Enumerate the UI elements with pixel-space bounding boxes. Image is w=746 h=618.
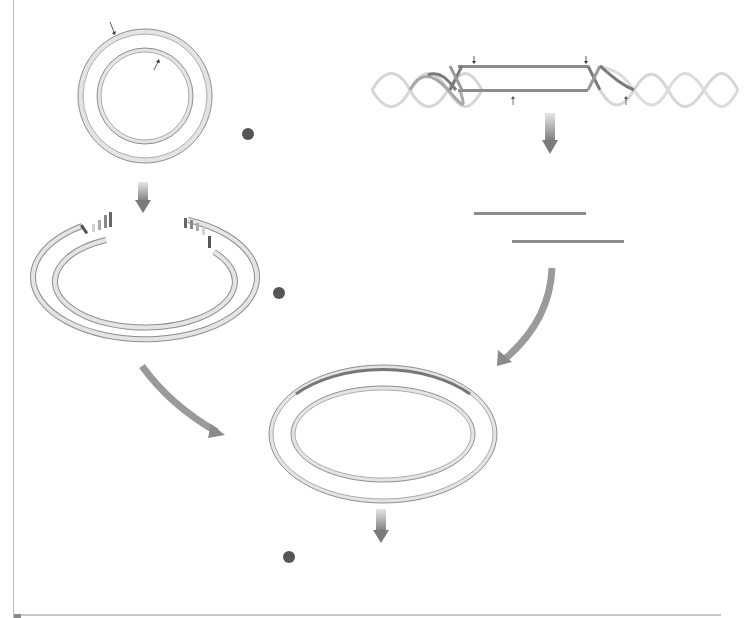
dna-of-interest-helix: [372, 56, 738, 107]
down-arrow-icon: [373, 509, 389, 543]
cut-site-arrow-icon: [110, 22, 116, 35]
plasmid-circle: [78, 22, 212, 163]
curved-arrow-left-icon: [142, 366, 225, 438]
cut-site-arrow-icon: [584, 56, 588, 64]
clonable-dna-fragment: [474, 212, 624, 243]
curved-arrow-right-icon: [497, 268, 552, 366]
opened-plasmid: [33, 212, 257, 339]
cut-site-arrow-icon: [472, 56, 476, 64]
down-arrow-icon: [135, 182, 151, 213]
step-number-badge: [283, 551, 295, 563]
bottom-strand: [458, 89, 588, 92]
step-number-badge: [273, 287, 285, 299]
step-number-badge: [242, 128, 254, 140]
recombinant-dna-ring: [269, 365, 497, 503]
recombinant-dna-diagram: [0, 0, 746, 618]
cut-site-arrow-icon: [511, 96, 515, 105]
top-strand: [458, 65, 588, 68]
down-arrow-icon: [542, 113, 558, 154]
